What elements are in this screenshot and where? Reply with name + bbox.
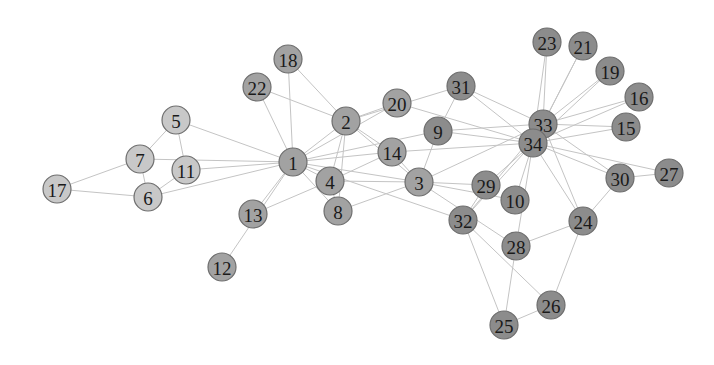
node-label: 26 bbox=[542, 296, 561, 317]
node-30: 30 bbox=[606, 164, 634, 192]
node-label: 17 bbox=[48, 180, 67, 201]
node-4: 4 bbox=[316, 167, 344, 195]
node-11: 11 bbox=[172, 156, 200, 184]
node-26: 26 bbox=[537, 291, 565, 319]
node-10: 10 bbox=[501, 186, 529, 214]
node-label: 23 bbox=[538, 33, 557, 54]
node-14: 14 bbox=[378, 138, 406, 166]
edge-25-32 bbox=[463, 220, 504, 325]
network-graph: 1234567891011121314151617181920212223242… bbox=[0, 0, 714, 365]
node-17: 17 bbox=[43, 175, 71, 203]
node-label: 19 bbox=[601, 62, 620, 83]
node-label: 2 bbox=[341, 112, 351, 133]
node-label: 7 bbox=[135, 150, 145, 171]
node-16: 16 bbox=[625, 83, 653, 111]
edge-20-34 bbox=[397, 103, 533, 143]
node-label: 28 bbox=[507, 237, 526, 258]
node-label: 34 bbox=[524, 134, 544, 155]
edge-27-34 bbox=[533, 143, 669, 173]
node-label: 24 bbox=[574, 212, 594, 233]
node-8: 8 bbox=[324, 197, 352, 225]
edge-26-32 bbox=[463, 220, 551, 305]
node-label: 16 bbox=[630, 88, 649, 109]
node-9: 9 bbox=[424, 117, 452, 145]
node-label: 29 bbox=[477, 176, 496, 197]
node-1: 1 bbox=[279, 148, 307, 176]
node-2: 2 bbox=[332, 107, 360, 135]
edge-1-32 bbox=[293, 162, 463, 220]
node-31: 31 bbox=[447, 72, 475, 100]
node-label: 8 bbox=[333, 202, 343, 223]
node-label: 15 bbox=[617, 118, 636, 139]
node-label: 10 bbox=[506, 191, 525, 212]
node-label: 18 bbox=[279, 50, 298, 71]
node-6: 6 bbox=[134, 183, 162, 211]
node-27: 27 bbox=[655, 159, 683, 187]
node-22: 22 bbox=[243, 73, 271, 101]
node-label: 27 bbox=[660, 164, 679, 185]
node-label: 1 bbox=[288, 153, 298, 174]
node-29: 29 bbox=[472, 171, 500, 199]
node-12: 12 bbox=[208, 253, 236, 281]
edge-1-18 bbox=[288, 59, 293, 162]
node-label: 14 bbox=[383, 143, 403, 164]
node-layer: 1234567891011121314151617181920212223242… bbox=[43, 28, 683, 339]
node-label: 25 bbox=[495, 316, 514, 337]
node-label: 6 bbox=[143, 188, 153, 209]
node-25: 25 bbox=[490, 311, 518, 339]
node-label: 11 bbox=[177, 161, 195, 182]
node-label: 21 bbox=[574, 37, 593, 58]
node-label: 20 bbox=[388, 94, 407, 115]
node-24: 24 bbox=[569, 207, 597, 235]
node-label: 22 bbox=[248, 78, 267, 99]
node-19: 19 bbox=[596, 57, 624, 85]
node-32: 32 bbox=[449, 206, 477, 234]
node-label: 5 bbox=[171, 111, 181, 132]
node-18: 18 bbox=[274, 45, 302, 73]
node-label: 3 bbox=[414, 173, 424, 194]
node-label: 13 bbox=[244, 205, 263, 226]
node-15: 15 bbox=[612, 113, 640, 141]
node-label: 31 bbox=[452, 77, 471, 98]
node-7: 7 bbox=[126, 145, 154, 173]
node-label: 32 bbox=[454, 211, 473, 232]
node-13: 13 bbox=[239, 200, 267, 228]
node-23: 23 bbox=[533, 28, 561, 56]
node-34: 34 bbox=[519, 129, 547, 157]
node-label: 9 bbox=[433, 122, 443, 143]
node-20: 20 bbox=[383, 89, 411, 117]
node-28: 28 bbox=[502, 232, 530, 260]
node-label: 4 bbox=[325, 172, 335, 193]
edge-1-9 bbox=[293, 131, 438, 162]
node-21: 21 bbox=[569, 32, 597, 60]
node-3: 3 bbox=[405, 168, 433, 196]
edge-1-7 bbox=[140, 159, 293, 162]
node-label: 30 bbox=[611, 169, 630, 190]
edge-14-34 bbox=[392, 143, 533, 152]
node-5: 5 bbox=[162, 106, 190, 134]
node-label: 12 bbox=[213, 258, 232, 279]
